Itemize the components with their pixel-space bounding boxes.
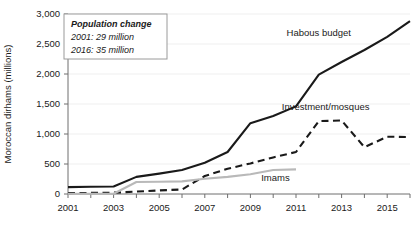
x-tick-label: 2011: [286, 202, 306, 213]
y-tick-label: 2,000: [36, 68, 60, 79]
y-tick-label: 500: [44, 158, 60, 169]
y-tick-label: 1,000: [36, 128, 60, 139]
series-label: Investment/mosques: [282, 101, 370, 112]
x-tick-label: 2009: [240, 202, 261, 213]
chart-figure: 05001,0001,5002,0002,5003,000 2001200320…: [0, 0, 418, 239]
y-tick-label: 3,000: [36, 8, 60, 19]
x-tick-label: 2013: [331, 202, 352, 213]
x-tick-label: 2003: [103, 202, 124, 213]
y-tick-label: 2,500: [36, 38, 60, 49]
y-tick-label: 0: [55, 188, 60, 199]
y-tick-label: 1,500: [36, 98, 60, 109]
x-tick-label: 2001: [57, 202, 78, 213]
x-tick-label: 2007: [194, 202, 215, 213]
population-annotation: Population change 2001: 29 million 2016:…: [64, 14, 167, 59]
series-label: Habous budget: [287, 27, 352, 38]
line-chart: 05001,0001,5002,0002,5003,000 2001200320…: [0, 0, 418, 239]
x-tick-label: 2005: [149, 202, 170, 213]
y-axis-label: Moroccan dirhams (millions): [2, 45, 13, 164]
x-tick-label: 2015: [377, 202, 398, 213]
annotation-title: Population change: [71, 19, 152, 29]
annotation-line-2: 2016: 35 million: [70, 45, 134, 55]
series-label: Imams: [261, 172, 290, 183]
annotation-line-1: 2001: 29 million: [70, 32, 134, 42]
